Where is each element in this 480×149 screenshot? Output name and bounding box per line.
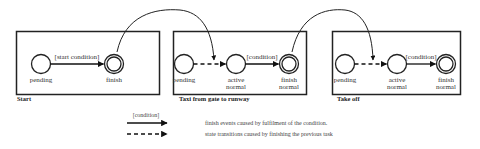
transition-condition-label: [condition]: [246, 53, 277, 61]
task-box-start: [start condition] pending finish Start: [17, 32, 160, 103]
legend-dashed-text: state transitions caused by finishing th…: [205, 131, 333, 137]
state-label: finish: [106, 76, 122, 84]
flow-diagram: [start condition] pending finish Start […: [0, 0, 480, 149]
state-label: pending: [30, 76, 53, 84]
legend-solid-text: finish events caused by fulfilment of th…: [205, 120, 328, 126]
state-label-sub: normal: [436, 83, 456, 91]
task-box-takeoff: [condition] pending active normal finish…: [333, 32, 461, 103]
transition-condition-label: [condition]: [405, 53, 436, 61]
state-pending-circle: [175, 55, 194, 74]
task-title: Start: [17, 95, 32, 102]
state-label: pending: [173, 76, 196, 84]
state-label-sub: normal: [387, 83, 407, 91]
task-title: Take off: [337, 95, 361, 102]
state-label: pending: [334, 76, 357, 84]
transition-condition-label: [start condition]: [55, 53, 100, 61]
task-title: Taxi from gate to runway: [179, 95, 250, 102]
state-label-sub: normal: [226, 83, 246, 91]
state-active-circle: [227, 55, 246, 74]
state-pending-circle: [336, 55, 355, 74]
task-box-taxi: [condition] pending active normal finish…: [173, 32, 307, 103]
state-pending-circle: [32, 55, 51, 74]
state-active-circle: [388, 55, 407, 74]
legend-condition-label: [condition]: [133, 112, 160, 119]
legend: [condition] finish events caused by fulf…: [127, 112, 333, 137]
state-label-sub: normal: [279, 83, 299, 91]
curved-arrow-start-to-taxi: [117, 10, 214, 60]
